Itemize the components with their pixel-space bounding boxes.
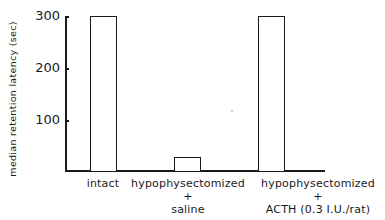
y-axis <box>65 16 67 171</box>
y-tick-label-300: 300 <box>28 8 60 23</box>
y-tick-200 <box>65 68 69 70</box>
bar-chart: median retention latency (sec) 300 200 1… <box>0 0 385 220</box>
x-label-acth: hypophysectomized + ACTH (0.3 I.U./rat) <box>252 177 384 216</box>
x-label-intact: intact <box>78 177 128 190</box>
y-tick-label-100: 100 <box>28 112 60 127</box>
y-tick-300 <box>65 16 69 18</box>
y-axis-label: median retention latency (sec) <box>7 19 21 179</box>
y-tick-100 <box>65 120 69 122</box>
bar-intact <box>90 16 117 171</box>
bar-hypophysectomized-acth <box>258 16 285 171</box>
stray-mark <box>231 110 233 112</box>
y-tick-label-200: 200 <box>28 60 60 75</box>
x-label-saline: hypophysectomized + saline <box>122 177 254 216</box>
bar-hypophysectomized-saline <box>174 157 201 171</box>
